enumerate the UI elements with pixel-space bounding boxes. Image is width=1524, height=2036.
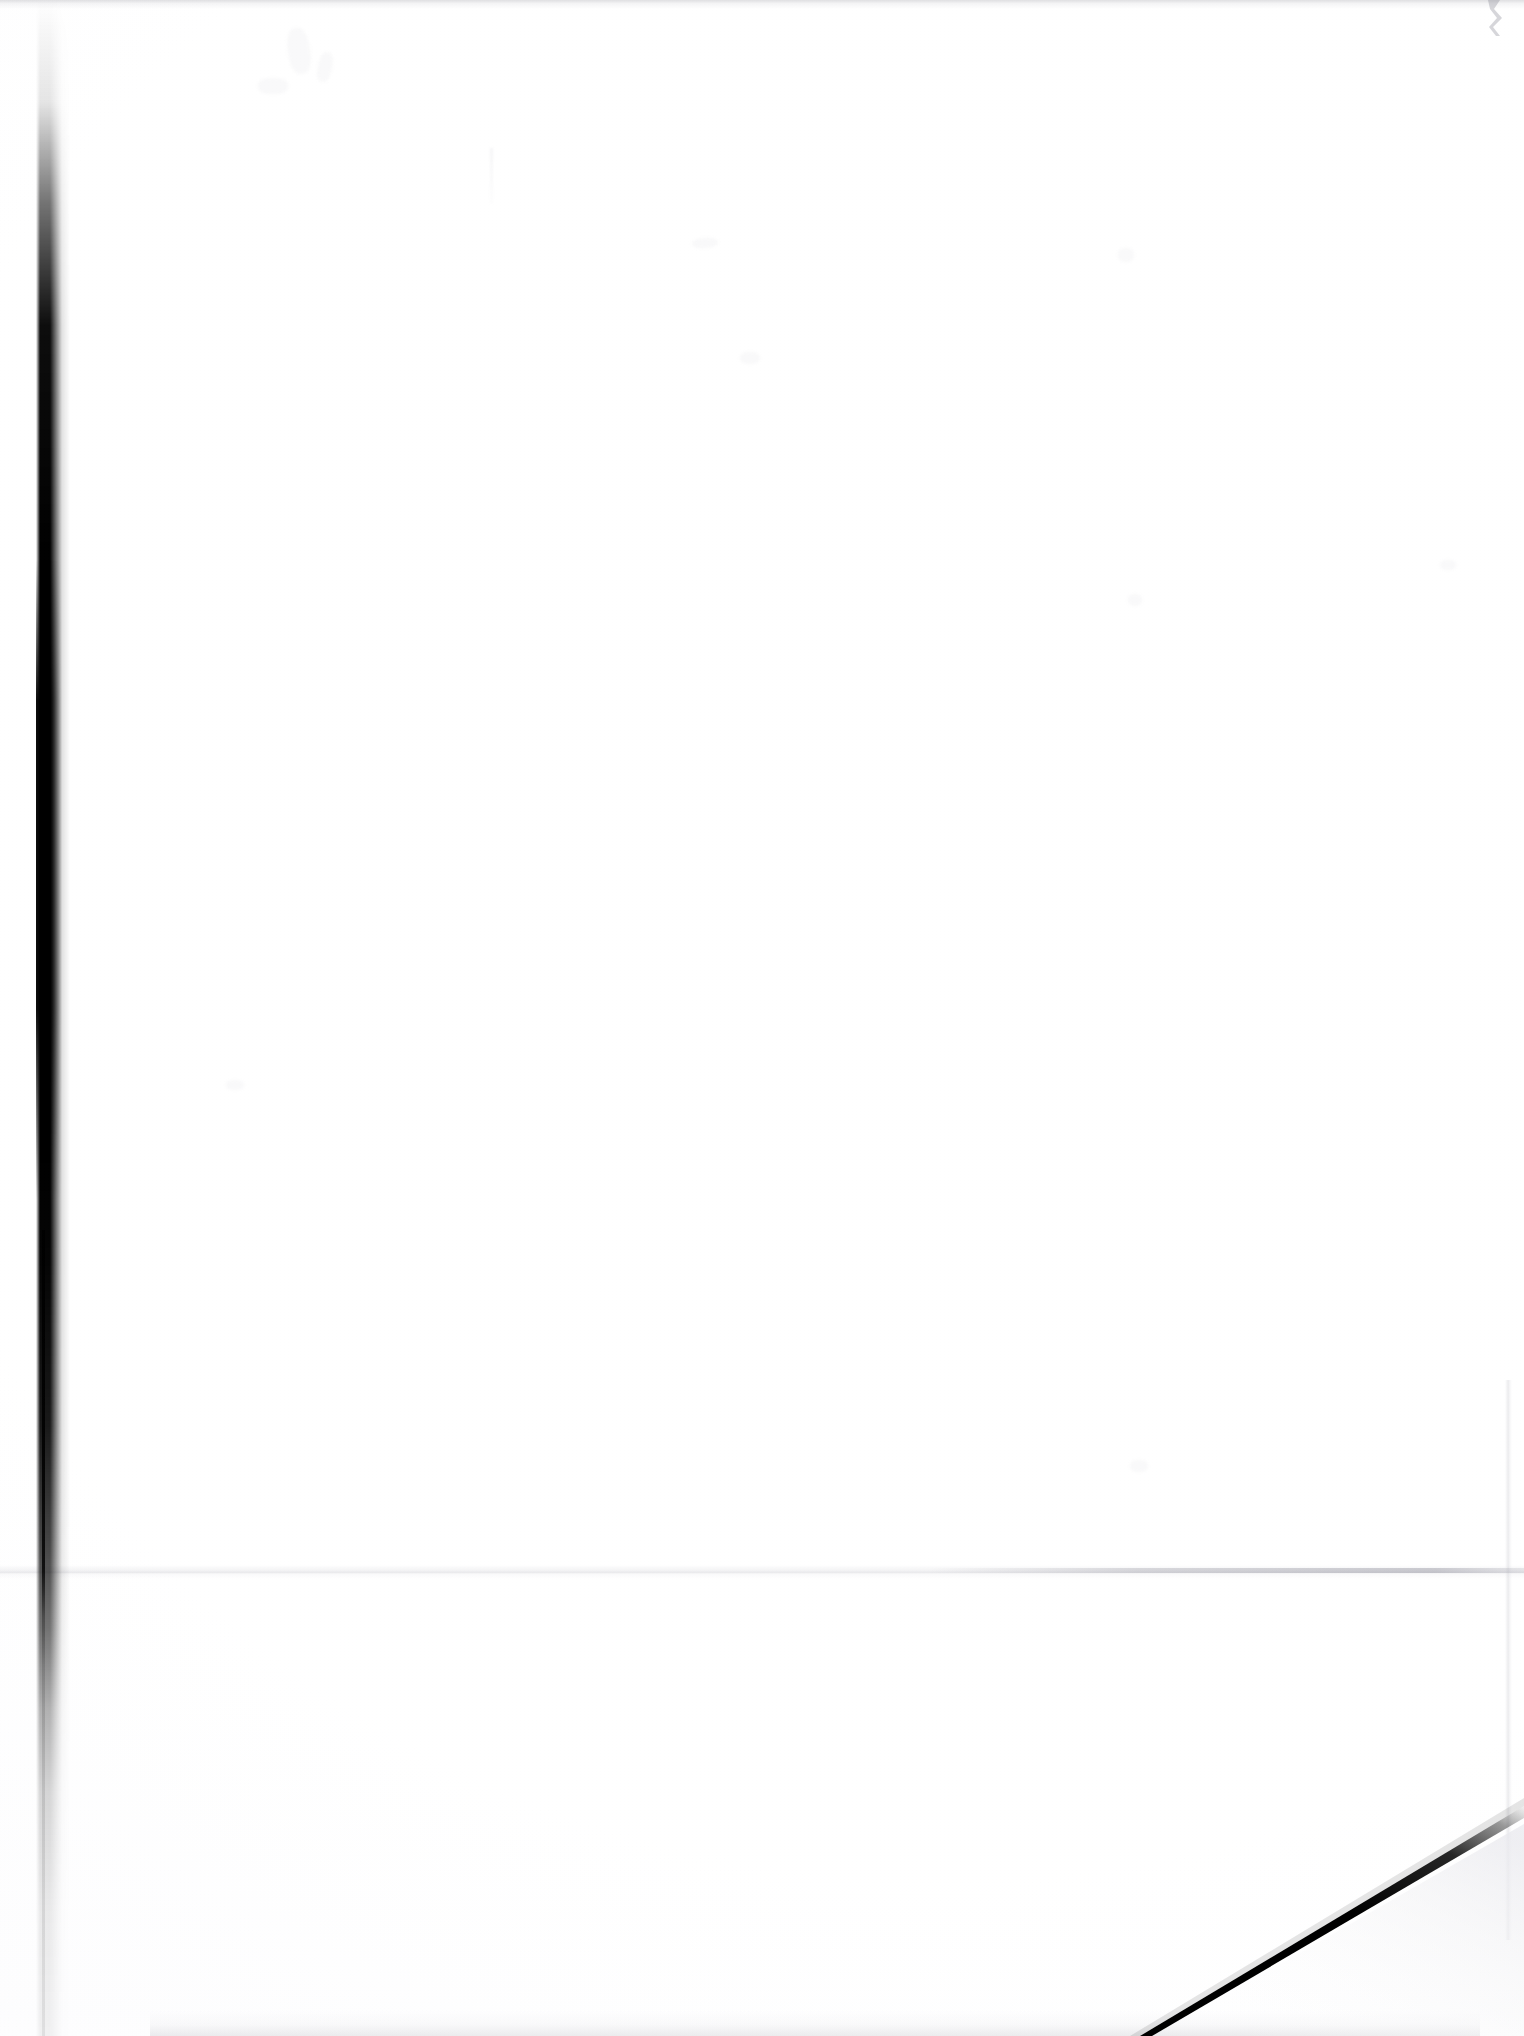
ghost-mark: [740, 352, 760, 364]
ghost-mark: [226, 1080, 244, 1090]
left-gutter-hairline: [42, 1230, 45, 2036]
bottom-edge-haze: [150, 2010, 1480, 2036]
ghost-stroke: [490, 148, 493, 204]
vertical-fold-crease: [1505, 1380, 1512, 1940]
gutter-shadow-bulge: [36, 560, 62, 1200]
paper-surface: [0, 0, 1524, 2036]
horizontal-fold-crease-right-segment: [930, 1568, 1524, 1573]
ghost-mark: [258, 78, 288, 94]
ghost-mark: [1130, 1460, 1148, 1472]
ghost-mark: [1118, 248, 1134, 262]
scanned-page: [0, 0, 1524, 2036]
ghost-mark: [1440, 560, 1456, 570]
left-gutter-shadow: [0, 0, 90, 2036]
top-edge-haze: [0, 0, 1524, 9]
ghost-mark: [1128, 594, 1142, 606]
